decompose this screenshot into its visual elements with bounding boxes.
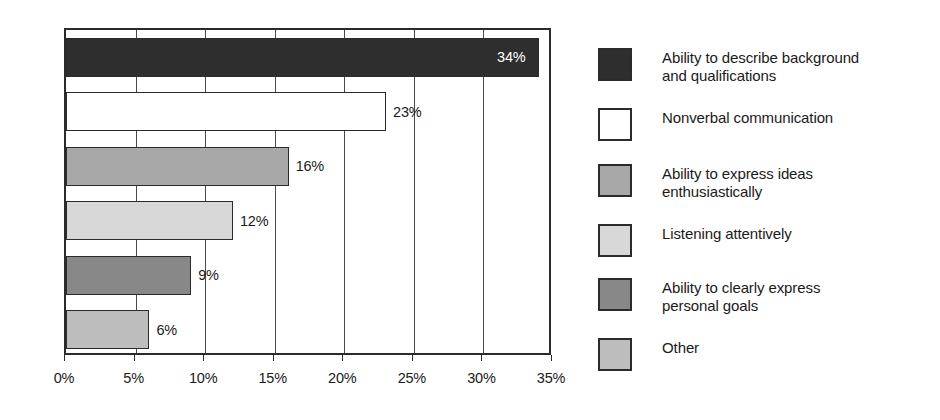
x-axis-tick-label: 10%	[189, 371, 217, 386]
x-axis-tick-label: 15%	[258, 371, 286, 386]
plot-area: 34%23%16%12%9%6%	[64, 28, 551, 355]
x-axis-tick	[134, 355, 135, 361]
legend-item: Nonverbal communication	[598, 108, 833, 141]
x-axis-tick-label: 25%	[398, 371, 426, 386]
x-axis-tick-label: 0%	[54, 371, 75, 386]
legend-item: Listening attentively	[598, 224, 792, 257]
bar-chart: 34%23%16%12%9%6% 0%5%10%15%20%25%30%35%	[0, 0, 580, 420]
legend-label: Other	[662, 338, 699, 357]
x-axis-tick	[203, 355, 204, 361]
chart-page: 34%23%16%12%9%6% 0%5%10%15%20%25%30%35% …	[0, 0, 940, 420]
gridline	[275, 30, 276, 353]
bar-value-label: 12%	[240, 214, 268, 229]
bar-value-label: 9%	[198, 268, 219, 283]
gridline	[344, 30, 345, 353]
x-axis-tick	[342, 355, 343, 361]
legend-label: Nonverbal communication	[662, 108, 833, 127]
legend-label: Listening attentively	[662, 224, 792, 243]
legend-label: Ability to express ideas enthusiasticall…	[662, 164, 813, 202]
legend-label: Ability to clearly express personal goal…	[662, 278, 820, 316]
legend-swatch	[598, 278, 632, 311]
x-axis-tick-label: 5%	[123, 371, 144, 386]
gridline	[136, 30, 137, 353]
bar	[66, 92, 386, 131]
legend-swatch	[598, 338, 632, 371]
x-axis-tick-label: 30%	[467, 371, 495, 386]
legend-swatch	[598, 48, 632, 81]
x-axis-tick	[273, 355, 274, 361]
legend-label: Ability to describe background and quali…	[662, 48, 859, 86]
legend-swatch	[598, 224, 632, 257]
bar	[66, 201, 233, 240]
legend-item: Other	[598, 338, 699, 371]
bar-value-label: 23%	[393, 105, 421, 120]
legend-item: Ability to describe background and quali…	[598, 48, 859, 86]
bar	[66, 310, 149, 349]
bar	[66, 147, 289, 186]
gridline	[205, 30, 206, 353]
x-axis-tick-label: 20%	[328, 371, 356, 386]
x-axis-tick	[64, 355, 65, 361]
bar-value-label: 6%	[156, 323, 177, 338]
bar	[66, 38, 539, 77]
bar-value-label: 34%	[497, 50, 525, 65]
bar	[66, 256, 191, 295]
x-axis-tick	[481, 355, 482, 361]
legend-swatch	[598, 108, 632, 141]
gridline	[414, 30, 415, 353]
gridline	[483, 30, 484, 353]
legend-item: Ability to express ideas enthusiasticall…	[598, 164, 813, 202]
x-axis-tick	[551, 355, 552, 361]
x-axis-tick	[412, 355, 413, 361]
bar-value-label: 16%	[296, 159, 324, 174]
x-axis-tick-label: 35%	[537, 371, 565, 386]
legend-swatch	[598, 164, 632, 197]
legend-item: Ability to clearly express personal goal…	[598, 278, 820, 316]
